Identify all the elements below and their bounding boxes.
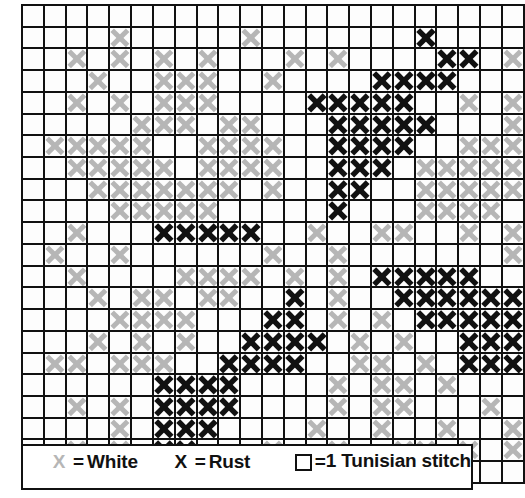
chart-cell[interactable] — [131, 135, 153, 157]
chart-cell[interactable] — [240, 418, 262, 440]
chart-cell[interactable] — [197, 5, 219, 27]
chart-cell[interactable] — [436, 418, 458, 440]
chart-cell[interactable] — [480, 244, 502, 266]
chart-cell[interactable] — [87, 353, 109, 375]
chart-cell[interactable] — [175, 309, 197, 331]
chart-cell[interactable] — [175, 70, 197, 92]
chart-cell[interactable] — [458, 157, 480, 179]
chart-cell[interactable] — [153, 222, 175, 244]
chart-cell[interactable] — [284, 70, 306, 92]
chart-cell[interactable] — [197, 70, 219, 92]
chart-cell[interactable] — [284, 92, 306, 114]
chart-cell[interactable] — [436, 157, 458, 179]
chart-cell[interactable] — [371, 114, 393, 136]
chart-cell[interactable] — [458, 200, 480, 222]
chart-cell[interactable] — [153, 114, 175, 136]
chart-cell[interactable] — [66, 222, 88, 244]
chart-cell[interactable] — [197, 135, 219, 157]
chart-cell[interactable] — [44, 374, 66, 396]
chart-cell[interactable] — [109, 92, 131, 114]
chart-cell[interactable] — [502, 135, 524, 157]
chart-cell[interactable] — [371, 418, 393, 440]
chart-cell[interactable] — [327, 222, 349, 244]
chart-cell[interactable] — [480, 222, 502, 244]
chart-cell[interactable] — [436, 27, 458, 49]
chart-cell[interactable] — [131, 244, 153, 266]
chart-cell[interactable] — [66, 92, 88, 114]
chart-cell[interactable] — [153, 48, 175, 70]
chart-cell[interactable] — [371, 353, 393, 375]
chart-cell[interactable] — [415, 244, 437, 266]
chart-cell[interactable] — [66, 287, 88, 309]
chart-cell[interactable] — [349, 222, 371, 244]
chart-cell[interactable] — [436, 5, 458, 27]
chart-cell[interactable] — [240, 5, 262, 27]
chart-cell[interactable] — [87, 331, 109, 353]
chart-cell[interactable] — [109, 266, 131, 288]
chart-cell[interactable] — [480, 135, 502, 157]
chart-cell[interactable] — [436, 244, 458, 266]
chart-cell[interactable] — [131, 92, 153, 114]
chart-cell[interactable] — [197, 266, 219, 288]
chart-cell[interactable] — [87, 396, 109, 418]
chart-cell[interactable] — [458, 70, 480, 92]
chart-cell[interactable] — [153, 266, 175, 288]
chart-cell[interactable] — [218, 266, 240, 288]
chart-cell[interactable] — [393, 266, 415, 288]
chart-cell[interactable] — [218, 179, 240, 201]
chart-cell[interactable] — [175, 396, 197, 418]
chart-cell[interactable] — [306, 396, 328, 418]
chart-cell[interactable] — [87, 157, 109, 179]
chart-cell[interactable] — [371, 266, 393, 288]
chart-cell[interactable] — [327, 244, 349, 266]
chart-cell[interactable] — [153, 287, 175, 309]
chart-cell[interactable] — [436, 200, 458, 222]
chart-cell[interactable] — [415, 157, 437, 179]
chart-cell[interactable] — [415, 135, 437, 157]
chart-cell[interactable] — [87, 266, 109, 288]
chart-cell[interactable] — [218, 200, 240, 222]
chart-cell[interactable] — [87, 418, 109, 440]
chart-cell[interactable] — [458, 179, 480, 201]
chart-cell[interactable] — [109, 48, 131, 70]
chart-cell[interactable] — [284, 157, 306, 179]
chart-cell[interactable] — [436, 135, 458, 157]
chart-cell[interactable] — [371, 135, 393, 157]
chart-cell[interactable] — [109, 396, 131, 418]
chart-cell[interactable] — [480, 157, 502, 179]
chart-cell[interactable] — [22, 5, 44, 27]
chart-cell[interactable] — [153, 200, 175, 222]
chart-cell[interactable] — [240, 157, 262, 179]
chart-cell[interactable] — [131, 48, 153, 70]
chart-cell[interactable] — [306, 331, 328, 353]
chart-cell[interactable] — [44, 135, 66, 157]
chart-cell[interactable] — [458, 396, 480, 418]
chart-cell[interactable] — [240, 374, 262, 396]
chart-cell[interactable] — [66, 157, 88, 179]
chart-cell[interactable] — [480, 179, 502, 201]
chart-cell[interactable] — [415, 418, 437, 440]
chart-cell[interactable] — [415, 374, 437, 396]
chart-cell[interactable] — [502, 461, 524, 483]
chart-cell[interactable] — [44, 70, 66, 92]
chart-cell[interactable] — [458, 418, 480, 440]
chart-cell[interactable] — [262, 418, 284, 440]
chart-cell[interactable] — [415, 309, 437, 331]
chart-cell[interactable] — [240, 353, 262, 375]
chart-cell[interactable] — [502, 396, 524, 418]
chart-cell[interactable] — [480, 48, 502, 70]
chart-cell[interactable] — [22, 222, 44, 244]
chart-cell[interactable] — [66, 374, 88, 396]
chart-cell[interactable] — [502, 200, 524, 222]
chart-cell[interactable] — [109, 179, 131, 201]
chart-cell[interactable] — [327, 331, 349, 353]
chart-cell[interactable] — [44, 157, 66, 179]
chart-cell[interactable] — [218, 157, 240, 179]
chart-cell[interactable] — [393, 418, 415, 440]
chart-cell[interactable] — [306, 287, 328, 309]
chart-cell[interactable] — [284, 287, 306, 309]
chart-cell[interactable] — [349, 114, 371, 136]
chart-cell[interactable] — [131, 157, 153, 179]
chart-cell[interactable] — [218, 5, 240, 27]
chart-cell[interactable] — [175, 48, 197, 70]
